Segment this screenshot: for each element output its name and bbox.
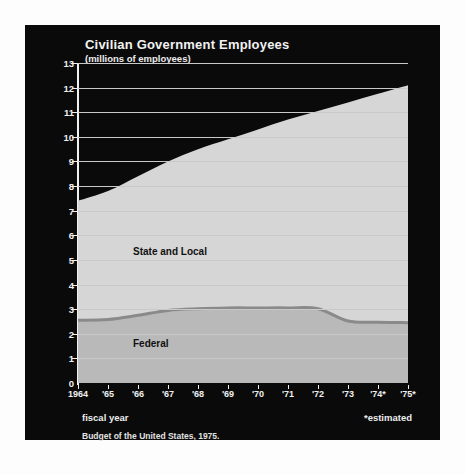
- y-axis-tickmark: [72, 358, 78, 359]
- y-axis-tickmark: [72, 285, 78, 286]
- y-axis-tick-2: 2: [52, 328, 74, 339]
- y-axis-tick-12: 12: [52, 82, 74, 93]
- x-axis-tick-73: '73: [342, 389, 354, 399]
- x-axis-tick-74: '74*: [370, 389, 386, 399]
- chart-page: Civilian Government Employees (millions …: [0, 0, 465, 475]
- y-axis-tick-1: 1: [52, 353, 74, 364]
- x-axis-tickmark: [198, 385, 199, 389]
- x-axis-tickmark: [318, 385, 319, 389]
- y-axis-tick-8: 8: [52, 181, 74, 192]
- x-axis-tick-72: '72: [312, 389, 324, 399]
- x-axis-labels: 1964'65'66'67'68'69'70'71'72'73'74*'75*: [78, 389, 408, 403]
- gridline: [78, 112, 408, 113]
- gridline: [78, 211, 408, 212]
- x-axis-tick-68: '68: [192, 389, 204, 399]
- series-label-state-and-local: State and Local: [133, 246, 207, 257]
- y-axis-tickmark: [72, 334, 78, 335]
- x-axis-tickmark: [408, 385, 409, 389]
- gridline: [78, 309, 408, 310]
- gridline: [78, 186, 408, 187]
- x-axis-tick-67: '67: [162, 389, 174, 399]
- stacked-area-series: [78, 63, 408, 383]
- y-axis-tick-0: 0: [52, 378, 74, 389]
- gridline: [78, 235, 408, 236]
- gridline: [78, 63, 408, 64]
- x-axis-tick-75: '75*: [400, 389, 416, 399]
- gridline: [78, 334, 408, 335]
- y-axis-tick-4: 4: [52, 279, 74, 290]
- gridline: [78, 161, 408, 162]
- x-axis-tick-69: '69: [222, 389, 234, 399]
- y-axis-tick-10: 10: [52, 131, 74, 142]
- y-axis-tick-7: 7: [52, 205, 74, 216]
- source-note: Budget of the United States, 1975.: [82, 431, 219, 441]
- y-axis-tick-3: 3: [52, 304, 74, 315]
- y-axis-tickmark: [72, 137, 78, 138]
- gridline: [78, 358, 408, 359]
- plot-area: [78, 63, 408, 383]
- x-axis-tickmark: [258, 385, 259, 389]
- x-axis-tickmark: [78, 385, 79, 389]
- x-axis-tickmark: [288, 385, 289, 389]
- y-axis-tick-11: 11: [52, 107, 74, 118]
- x-axis-tick-66: '66: [132, 389, 144, 399]
- y-axis-tickmark: [72, 186, 78, 187]
- chart-title: Civilian Government Employees: [85, 37, 289, 52]
- y-axis-tick-5: 5: [52, 254, 74, 265]
- y-axis-tickmark: [72, 235, 78, 236]
- x-axis-tick-65: '65: [102, 389, 114, 399]
- y-axis-tick-9: 9: [52, 156, 74, 167]
- x-axis-tickmark: [168, 385, 169, 389]
- y-axis-tickmark: [72, 161, 78, 162]
- x-axis-tickmark: [108, 385, 109, 389]
- x-axis-tickmark: [138, 385, 139, 389]
- x-axis-tickmark: [228, 385, 229, 389]
- y-axis-tick-6: 6: [52, 230, 74, 241]
- gridline: [78, 285, 408, 286]
- y-axis-tickmark: [72, 211, 78, 212]
- chart-panel: Civilian Government Employees (millions …: [25, 25, 440, 440]
- x-axis-tick-1964: 1964: [68, 389, 88, 399]
- y-axis-tick-13: 13: [52, 58, 74, 69]
- gridline: [78, 260, 408, 261]
- y-axis-labels: 012345678910111213: [48, 63, 74, 383]
- footnote-estimated: *estimated: [364, 412, 412, 423]
- y-axis-tickmark: [72, 309, 78, 310]
- x-axis-tick-71: '71: [282, 389, 294, 399]
- y-axis-tickmark: [72, 63, 78, 64]
- x-axis-tickmark: [378, 385, 379, 389]
- series-label-federal: Federal: [133, 338, 169, 349]
- gridline: [78, 137, 408, 138]
- y-axis-tickmark: [72, 88, 78, 89]
- x-axis-title: fiscal year: [82, 412, 128, 423]
- gridline: [78, 88, 408, 89]
- y-axis-tickmark: [72, 112, 78, 113]
- y-axis-tickmark: [72, 260, 78, 261]
- x-axis-tickmark: [348, 385, 349, 389]
- x-axis-tick-70: '70: [252, 389, 264, 399]
